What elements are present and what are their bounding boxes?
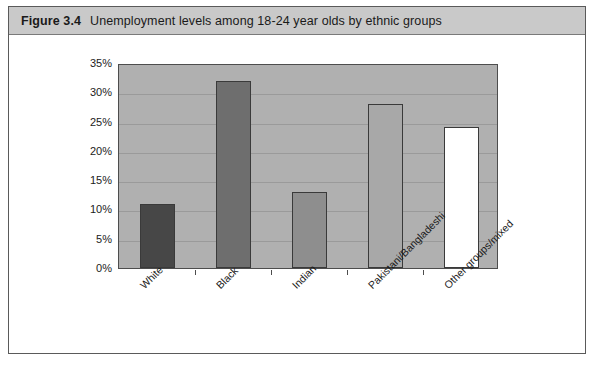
gridline (119, 94, 497, 95)
bar-black (216, 81, 251, 268)
figure-caption-bar: Figure 3.4 Unemployment levels among 18-… (9, 7, 585, 35)
x-axis-tick (347, 270, 348, 275)
bar-chart: 0%5%10%15%20%25%30%35% WhiteBlackIndianP… (9, 35, 587, 354)
figure-frame: Figure 3.4 Unemployment levels among 18-… (8, 6, 586, 354)
x-axis-tick (271, 270, 272, 275)
gridline (119, 153, 497, 154)
y-axis-tick-label: 20% (72, 145, 112, 157)
gridline (119, 182, 497, 183)
bar-pakistani-bangladeshi (368, 104, 403, 268)
figure-number: Figure 3.4 (21, 14, 81, 28)
gridline (119, 124, 497, 125)
bar-other-groups-mixed (444, 127, 479, 268)
bar-indian (292, 192, 327, 268)
bar-white (140, 204, 175, 268)
x-axis-tick (423, 270, 424, 275)
x-axis-tick (195, 270, 196, 275)
y-axis-tick-label: 35% (72, 57, 112, 69)
y-axis-tick-label: 0% (72, 262, 112, 274)
y-axis-tick-label: 10% (72, 203, 112, 215)
figure-caption-text: Unemployment levels among 18-24 year old… (90, 14, 442, 28)
y-axis-tick-label: 5% (72, 233, 112, 245)
y-axis-tick-labels: 0%5%10%15%20%25%30%35% (68, 64, 112, 269)
y-axis-tick-label: 30% (72, 86, 112, 98)
y-axis-tick-label: 25% (72, 116, 112, 128)
plot-area (118, 64, 498, 269)
y-axis-tick-label: 15% (72, 174, 112, 186)
